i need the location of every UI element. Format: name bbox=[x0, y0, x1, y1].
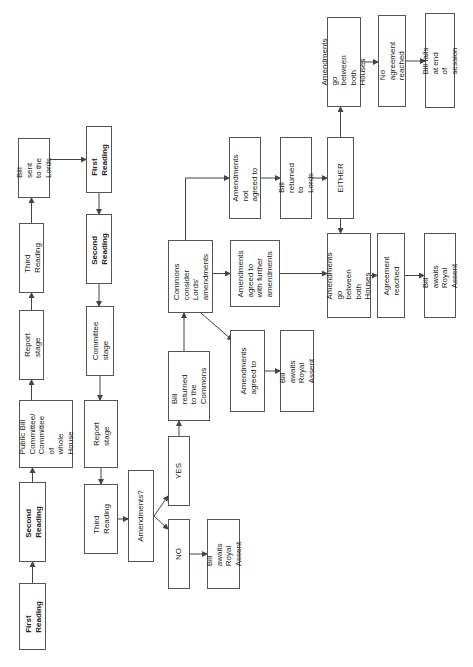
bill-process-flowchart: First Reading Second Reading Public Bill… bbox=[0, 0, 473, 667]
node-ping-pong-bottom: Amendments go between both Houses bbox=[327, 233, 371, 318]
node-label: Bill awaits Royal Assent bbox=[278, 359, 316, 383]
node-ping-pong-top: Amendments go between both Houses bbox=[327, 17, 361, 107]
node-label: Second Reading bbox=[23, 506, 42, 538]
node-label: Amendments go between both Houses bbox=[325, 252, 373, 299]
node-lords-first-reading: First Reading bbox=[86, 126, 112, 193]
node-amendments-agreed: Amendments agreed to bbox=[230, 330, 265, 412]
node-commons-first-reading: First Reading bbox=[19, 583, 46, 650]
node-final-royal-assent: Bill awaits Royal Assent bbox=[424, 233, 456, 318]
node-bill-returned-to-commons: Bill returned to the Commons bbox=[168, 351, 210, 421]
node-further-amendments: Amendments agreed to with further amendm… bbox=[230, 240, 280, 307]
node-label: Bill returned to Lords bbox=[277, 163, 315, 193]
node-label: Second Reading bbox=[90, 233, 109, 265]
node-label: Agreement reached bbox=[382, 256, 401, 295]
node-label: NO bbox=[174, 548, 184, 560]
node-label: Report stage bbox=[92, 422, 111, 446]
node-label: First Reading bbox=[90, 144, 109, 176]
node-label: Amendments? bbox=[136, 490, 146, 542]
node-yes: YES bbox=[168, 436, 190, 506]
node-lords-report-stage: Report stage bbox=[84, 400, 118, 468]
node-label: Amendments agreed to bbox=[238, 347, 257, 394]
node-label: Public Bill Committee/ Committee of whol… bbox=[18, 414, 75, 455]
node-label: Third Reading bbox=[22, 243, 41, 273]
node-bill-fails: Bill fails at end of session bbox=[425, 13, 455, 108]
node-label: First Reading bbox=[23, 601, 42, 633]
connector-amendments-q-to-yes bbox=[154, 496, 168, 516]
node-public-bill-committee: Public Bill Committee/ Committee of whol… bbox=[19, 400, 73, 468]
node-commons-third-reading: Third Reading bbox=[19, 223, 44, 293]
node-label: Committee stage bbox=[91, 322, 110, 361]
node-amendments-not-agreed: Amendments not agreed to bbox=[229, 137, 261, 219]
node-label: EITHER bbox=[336, 163, 346, 192]
node-no: NO bbox=[168, 519, 190, 589]
node-label: Bill sent to the Lords bbox=[15, 158, 53, 178]
node-label: Bill awaits Royal Assent bbox=[421, 263, 459, 287]
node-no-agreement: No agreement reached bbox=[378, 15, 406, 107]
node-label: Amendments go between both Houses bbox=[320, 38, 368, 85]
node-commons-report-stage: Report stage bbox=[19, 310, 44, 380]
node-lords-third-reading: Third Reading bbox=[84, 484, 118, 554]
connector-amendments-q-to-no bbox=[154, 516, 168, 529]
node-lords-committee-stage: Committee stage bbox=[86, 306, 114, 376]
node-label: Bill awaits Royal Assent bbox=[205, 542, 243, 566]
node-label: No agreement reached bbox=[378, 42, 407, 80]
connector-commons-consider-to-not-agreed bbox=[186, 178, 230, 240]
node-bill-returned-to-lords: Bill returned to Lords bbox=[280, 137, 312, 219]
node-agreement-reached: Agreement reached bbox=[377, 233, 405, 318]
node-label: Amendments not agreed to bbox=[231, 154, 260, 201]
node-commons-consider-amendments: Commons consider Lords' amendments bbox=[168, 240, 213, 313]
node-bill-sent-to-lords: Bill sent to the Lords bbox=[18, 138, 50, 198]
node-amendments-decision: Amendments? bbox=[128, 470, 154, 562]
node-agreed-royal-assent: Bill awaits Royal Assent bbox=[280, 330, 314, 412]
node-label: Amendments agreed to with further amendm… bbox=[236, 250, 274, 297]
node-label: Commons consider Lords' amendments bbox=[172, 253, 210, 299]
node-no-amendments-royal-assent: Bill awaits Royal Assent bbox=[207, 519, 240, 589]
node-label: Report stage bbox=[22, 333, 41, 357]
connector-commons-consider-to-agreed-to bbox=[201, 313, 232, 340]
node-label: Third Reading bbox=[92, 504, 111, 534]
node-either: EITHER bbox=[327, 137, 354, 219]
node-commons-second-reading: Second Reading bbox=[19, 482, 46, 562]
node-label: Bill returned to the Commons bbox=[170, 368, 208, 404]
node-lords-second-reading: Second Reading bbox=[86, 214, 112, 284]
node-label: Bill fails at end of session bbox=[421, 47, 459, 74]
node-label: YES bbox=[174, 463, 184, 479]
